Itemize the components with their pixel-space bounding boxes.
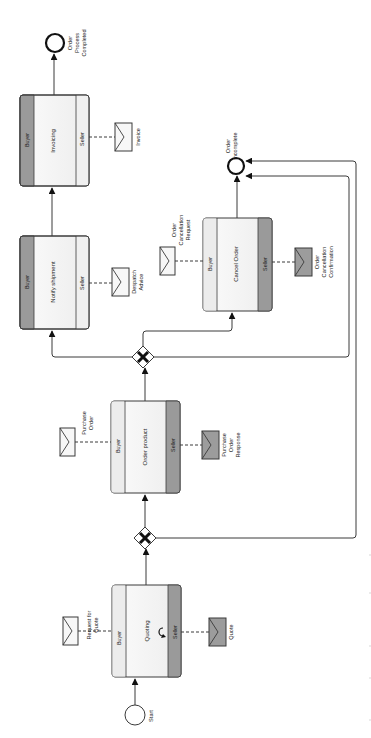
message-label-line-3: Response	[235, 432, 241, 457]
end-label-line-1: Order	[225, 139, 231, 153]
buyer-label: Buyer	[24, 133, 30, 147]
message-label-line-1: Quote	[228, 624, 234, 639]
message-label-line-1: Purchase	[221, 433, 227, 457]
message-label-line-1: Despatch	[131, 270, 137, 294]
message-label-line-3: Request	[185, 219, 191, 240]
task-order-product[interactable]: Buyer Order product Seller	[111, 401, 180, 493]
seller-label: Seller	[79, 276, 85, 290]
message-label-line-2: Order	[88, 416, 94, 430]
message-label-line-3: Confirmation	[328, 246, 334, 278]
message-label-line-1: Order	[171, 223, 177, 237]
sequence-flows	[52, 54, 356, 705]
message-purchase-order-response[interactable]: Purchase Order Response	[202, 431, 241, 459]
bpmn-choreography-diagram: Buyer Quoting Seller Buyer Order product…	[0, 0, 371, 738]
task-label: Quoting	[144, 620, 150, 641]
end-label-line-1: Order	[67, 36, 73, 50]
message-order-cancellation-confirmation[interactable]: Order Cancellation Confirmation	[295, 246, 334, 278]
end-label-line-2: incomplete	[232, 132, 238, 159]
end-label-line-3: Completed	[81, 29, 87, 56]
message-label-line-2: Cancellation	[178, 215, 184, 246]
message-label-line-1: Invoice	[135, 128, 141, 146]
buyer-label: Buyer	[116, 631, 122, 645]
message-request-for-quote[interactable]: Request for Quote	[63, 610, 99, 645]
message-associations	[75, 137, 295, 632]
exclusive-gateway-1[interactable]	[134, 527, 156, 549]
message-label-line-2: Quote	[93, 617, 99, 632]
task-cancel-order[interactable]: Buyer Cancel Order Seller	[203, 218, 272, 311]
seller-label: Seller	[79, 132, 85, 146]
flow-gateway2-to-notify-shipment	[52, 331, 132, 357]
message-label-line-2: Cancellation	[321, 247, 327, 278]
buyer-label: Buyer	[115, 439, 121, 453]
message-label-line-1: Request for	[86, 610, 92, 639]
task-label: Order product	[142, 428, 148, 465]
task-label: Notify shipment	[50, 261, 56, 303]
end-label-line-2: Process	[74, 33, 80, 53]
message-label-line-2: Order	[228, 438, 234, 452]
message-label-line-2: Advice	[138, 274, 144, 291]
task-notify-shipment[interactable]: Buyer Notify shipment Seller	[20, 236, 89, 329]
message-purchase-order[interactable]: Purchase Order	[60, 411, 94, 456]
task-label: Cancel Order	[233, 246, 239, 282]
seller-label: Seller	[172, 625, 178, 639]
message-despatch-advice[interactable]: Despatch Advice	[112, 268, 144, 296]
seller-label: Seller	[170, 438, 176, 452]
seller-label: Seller	[262, 257, 268, 271]
task-invoicing[interactable]: Buyer Invoicing Seller	[20, 95, 89, 186]
message-quote[interactable]: Quote	[209, 618, 234, 646]
message-label-line-1: Order	[314, 255, 320, 269]
message-order-cancellation-request[interactable]: Order Cancellation Request	[160, 215, 191, 275]
start-event[interactable]: Start	[125, 705, 154, 725]
end-event-order-incomplete[interactable]: Order incomplete	[225, 132, 244, 174]
task-quoting[interactable]: Buyer Quoting Seller	[112, 585, 181, 677]
end-event-order-process-completed[interactable]: Order Process Completed	[46, 29, 87, 56]
message-invoice[interactable]: Invoice	[115, 123, 141, 151]
message-label-line-1: Purchase	[81, 411, 87, 435]
exclusive-gateway-2[interactable]	[132, 346, 154, 368]
start-label: Start	[148, 710, 154, 722]
buyer-label: Buyer	[24, 275, 30, 289]
buyer-label: Buyer	[207, 257, 213, 271]
task-label: Invoicing	[50, 129, 56, 153]
flow-gateway2-to-cancel-order	[143, 313, 232, 346]
